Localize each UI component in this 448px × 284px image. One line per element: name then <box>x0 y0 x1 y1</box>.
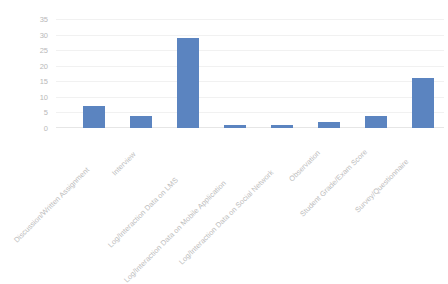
bar-log-interaction-data-on-social-network[interactable] <box>271 125 293 128</box>
bar-log-interaction-data-on-lms[interactable] <box>177 38 199 128</box>
plot-area <box>56 19 444 128</box>
y-axis-tick-label: 10 <box>40 92 48 101</box>
bar-student-grade-exam-score[interactable] <box>365 116 387 128</box>
y-axis-tick-label: 25 <box>40 46 48 55</box>
y-axis-tick-label: 0 <box>44 124 48 133</box>
y-axis-tick-label: 15 <box>40 77 48 86</box>
x-axis-label-survey-questionnaire[interactable]: Survey/Questionnaire <box>353 157 410 214</box>
y-axis-tick-label: 5 <box>44 108 48 117</box>
x-axis-label-interview[interactable]: Interview <box>110 150 138 178</box>
bar-observation[interactable] <box>318 122 340 128</box>
bar-interview[interactable] <box>130 116 152 128</box>
y-axis-tick-label: 35 <box>40 15 48 24</box>
y-axis-tick-label: 20 <box>40 61 48 70</box>
bar-discussion-written-assignment[interactable] <box>83 106 105 128</box>
bar-log-interaction-data-on-mobile-application[interactable] <box>224 125 246 128</box>
x-axis-label-observation[interactable]: Observation <box>287 148 322 183</box>
bars-layer <box>56 19 444 128</box>
y-axis-tick-label: 30 <box>40 30 48 39</box>
bar-survey-questionnaire[interactable] <box>412 78 434 128</box>
